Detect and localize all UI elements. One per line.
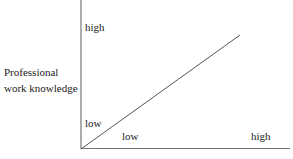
trend-line	[81, 35, 240, 149]
x-axis-low-label: low	[122, 130, 139, 143]
y-axis-title-line1: Professional	[4, 66, 58, 79]
diagram-canvas	[0, 0, 293, 159]
y-axis-high-label: high	[85, 21, 105, 34]
y-axis-low-label: low	[85, 117, 102, 130]
x-axis-high-label: high	[251, 130, 271, 143]
y-axis-title-line2: work knowledge	[4, 82, 78, 95]
